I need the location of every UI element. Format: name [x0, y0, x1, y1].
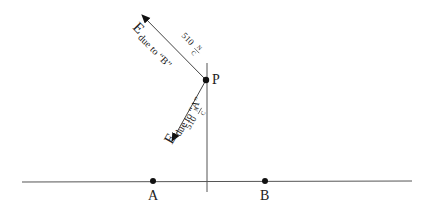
svg-text:due to “B”: due to “B”	[136, 32, 174, 70]
svg-text:C: C	[190, 50, 197, 57]
svg-text:C: C	[200, 110, 207, 116]
point-b-dot	[262, 178, 268, 184]
point-p-dot	[203, 77, 209, 83]
svg-text:510: 510	[180, 30, 197, 47]
point-p-label: P	[212, 72, 220, 87]
point-a-dot	[150, 178, 156, 184]
point-a-label: A	[148, 188, 159, 203]
field-diagram: P A B E due to “B” 510 N C E due to “A” …	[0, 0, 430, 212]
point-b-label: B	[260, 188, 269, 203]
baseline-axis	[22, 181, 412, 182]
